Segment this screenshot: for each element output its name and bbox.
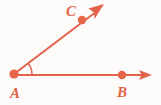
point-a-dot: [9, 69, 18, 78]
geometry-canvas: A B C: [0, 0, 161, 105]
angle-diagram: A B C: [0, 0, 161, 105]
point-b-dot: [118, 71, 126, 79]
point-label-c: C: [66, 3, 77, 19]
point-label-a: A: [9, 85, 20, 101]
point-label-b: B: [116, 84, 127, 100]
point-c-dot: [78, 16, 86, 24]
angle-arc: [28, 63, 32, 74]
